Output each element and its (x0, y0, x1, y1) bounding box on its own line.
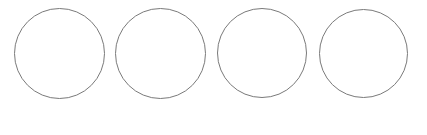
circles-canvas (0, 0, 427, 135)
circle-2 (115, 8, 206, 99)
circle-1 (14, 8, 105, 99)
circle-3 (217, 8, 307, 98)
circle-4 (319, 9, 408, 98)
